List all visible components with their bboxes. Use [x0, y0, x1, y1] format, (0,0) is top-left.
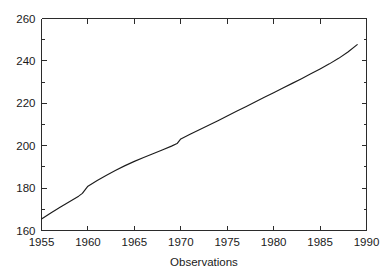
y-tick-label-180: 180 — [16, 182, 35, 194]
x-tick-label-1990: 1990 — [354, 236, 380, 248]
chart-canvas[interactable]: 1955196019651970197519801985199016018020… — [0, 0, 388, 276]
chart-figure: 1955196019651970197519801985199016018020… — [0, 0, 388, 276]
x-tick-label-1960: 1960 — [75, 236, 101, 248]
x-tick-label-1980: 1980 — [261, 236, 287, 248]
x-axis-title: Observations — [170, 256, 238, 268]
x-tick-label-1975: 1975 — [214, 236, 240, 248]
x-tick-label-1965: 1965 — [122, 236, 148, 248]
y-tick-label-220: 220 — [16, 97, 35, 109]
y-tick-label-260: 260 — [16, 13, 35, 25]
x-tick-label-1985: 1985 — [307, 236, 333, 248]
x-tick-label-1955: 1955 — [29, 236, 55, 248]
x-tick-label-1970: 1970 — [168, 236, 194, 248]
y-tick-label-240: 240 — [16, 55, 35, 67]
y-tick-label-160: 160 — [16, 225, 35, 237]
y-tick-label-200: 200 — [16, 140, 35, 152]
